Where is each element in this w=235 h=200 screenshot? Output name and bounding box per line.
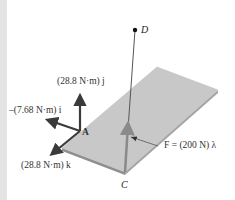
moment-i-label: –(7.68 N·m) i xyxy=(9,106,62,116)
point-a-label: A xyxy=(82,128,89,138)
force-label: F = (200 N) λ xyxy=(164,141,216,151)
point-d-dot xyxy=(133,28,137,32)
moment-k-label: (28.8 N·m) k xyxy=(21,161,71,171)
point-d-label: D xyxy=(141,25,148,35)
moment-j-label: (28.8 N·m) j xyxy=(57,77,105,87)
moment-i-arrow xyxy=(48,120,80,131)
point-c-label: C xyxy=(121,180,128,190)
